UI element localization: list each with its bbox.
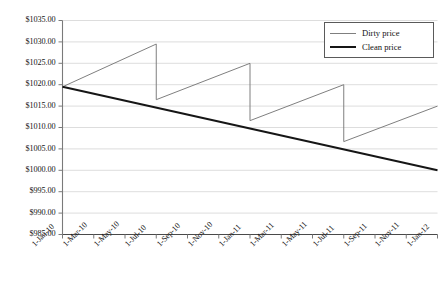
legend-line-swatch — [330, 33, 356, 34]
legend-item[interactable]: Dirty price — [330, 26, 427, 40]
legend-item[interactable]: Clean price — [330, 40, 427, 54]
legend-item-label: Dirty price — [362, 28, 399, 38]
series-line-dirty-price — [63, 44, 438, 142]
legend-item-label: Clean price — [362, 42, 401, 52]
y-axis-tick-label: $1035.00 — [0, 15, 56, 24]
y-axis-tick-label: $990.00 — [0, 208, 56, 217]
y-axis-tick-label: $1005.00 — [0, 144, 56, 153]
y-axis-tick-label: $1030.00 — [0, 37, 56, 46]
y-axis-tick-label: $1020.00 — [0, 79, 56, 88]
y-axis-tick-label: $995.00 — [0, 186, 56, 195]
y-axis-tick-label: $1010.00 — [0, 122, 56, 131]
bond-price-chart: $985.00$990.00$995.00$1000.00$1005.00$10… — [0, 0, 447, 289]
y-axis-tick-label: $1015.00 — [0, 101, 56, 110]
y-axis-tick-label: $1000.00 — [0, 165, 56, 174]
y-axis-tick-label: $1025.00 — [0, 58, 56, 67]
chart-legend: Dirty priceClean price — [324, 22, 434, 58]
legend-line-swatch — [330, 46, 356, 48]
